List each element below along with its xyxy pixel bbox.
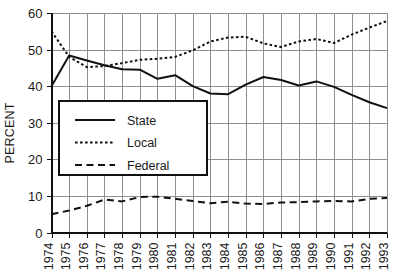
y-tick-label: 40 bbox=[28, 79, 42, 94]
x-tick-label: 1977 bbox=[94, 242, 108, 270]
x-tick-label: 1990 bbox=[324, 242, 338, 270]
x-tick-label: 1984 bbox=[218, 242, 232, 270]
x-tick-label: 1975 bbox=[59, 242, 73, 270]
chart-container: 0102030405060 19741975197619771978197919… bbox=[0, 0, 396, 275]
x-tick-label: 1992 bbox=[359, 242, 373, 270]
legend-label-federal: Federal bbox=[127, 159, 169, 173]
y-tick-label: 0 bbox=[35, 226, 42, 241]
x-tick-label: 1991 bbox=[342, 242, 356, 270]
chart-legend: StateLocalFederal bbox=[59, 101, 207, 175]
x-tick-label: 1987 bbox=[271, 242, 285, 270]
line-chart: 0102030405060 19741975197619771978197919… bbox=[0, 0, 396, 275]
y-tick-label: 50 bbox=[28, 43, 42, 58]
legend-label-local: Local bbox=[127, 136, 157, 150]
x-tick-label: 1976 bbox=[77, 242, 91, 270]
x-tick-label: 1974 bbox=[42, 242, 56, 270]
x-tick-label: 1989 bbox=[306, 242, 320, 270]
x-tick-label: 1983 bbox=[200, 242, 214, 270]
x-tick-label: 1980 bbox=[147, 242, 161, 270]
x-tick-label: 1985 bbox=[236, 242, 250, 270]
x-tick-label: 1981 bbox=[165, 242, 179, 270]
y-tick-label: 60 bbox=[28, 6, 42, 21]
y-axis-title: PERCENT bbox=[3, 102, 17, 163]
y-tick-label: 10 bbox=[28, 189, 42, 204]
y-tick-label: 30 bbox=[28, 116, 42, 131]
x-tick-label: 1993 bbox=[377, 242, 391, 270]
x-tick-label: 1978 bbox=[112, 242, 126, 270]
x-tick-label: 1979 bbox=[130, 242, 144, 270]
x-tick-label: 1982 bbox=[183, 242, 197, 270]
y-tick-label: 20 bbox=[28, 152, 42, 167]
x-tick-label: 1986 bbox=[253, 242, 267, 270]
x-tick-label: 1988 bbox=[289, 242, 303, 270]
legend-label-state: State bbox=[127, 114, 156, 128]
